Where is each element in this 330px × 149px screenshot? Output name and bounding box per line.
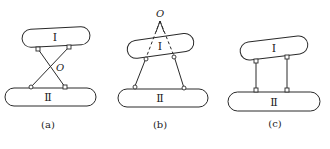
pivot-icon	[285, 88, 289, 92]
pivot-icon	[36, 47, 40, 51]
pivot-icon	[172, 55, 176, 59]
panel-b: Ⅰ Ⅱ O (b)	[118, 8, 208, 130]
pivot-icon	[182, 86, 186, 90]
pivot-icon	[144, 57, 148, 61]
pivot-icon	[67, 45, 71, 49]
link-b-left-top	[156, 21, 160, 32]
link-b-left	[135, 58, 146, 86]
caption-b: (b)	[153, 119, 167, 130]
kinematic-diagram: Ⅰ Ⅱ O (a) Ⅰ Ⅱ O (b) Ⅰ	[0, 0, 330, 149]
caption-a: (a)	[41, 119, 55, 130]
link-b-right-top	[160, 21, 164, 32]
label-body-II-a: Ⅱ	[44, 91, 51, 104]
panel-c: Ⅰ Ⅱ (c)	[228, 35, 320, 129]
pivot-icon	[254, 88, 258, 92]
label-body-I-c: Ⅰ	[272, 42, 276, 55]
pivot-icon	[63, 85, 67, 89]
pivot-icon	[133, 85, 137, 89]
label-body-I-a: Ⅰ	[53, 31, 57, 44]
pivot-icon	[254, 59, 258, 63]
pivot-icon	[29, 85, 33, 89]
panel-a: Ⅰ Ⅱ O (a)	[5, 26, 96, 130]
pivot-icon	[285, 55, 289, 59]
label-body-II-b: Ⅱ	[156, 92, 163, 105]
instant-center-label-a: O	[56, 62, 64, 73]
instant-center-label-b: O	[156, 8, 164, 19]
label-body-I-b: Ⅰ	[158, 40, 162, 53]
label-body-II-c: Ⅱ	[270, 96, 277, 109]
caption-c: (c)	[268, 118, 282, 129]
link-b-right	[174, 56, 184, 88]
